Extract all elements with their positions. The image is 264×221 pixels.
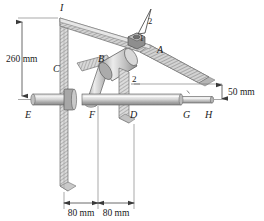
- slope-run-label: 1: [140, 33, 144, 43]
- slope-rise-label: 2: [148, 16, 152, 26]
- label-B: B: [98, 53, 104, 64]
- label-I: I: [59, 2, 64, 13]
- dimension-80mm-right-label: 80 mm: [103, 208, 130, 218]
- label-C: C: [53, 63, 60, 74]
- label-E: E: [24, 109, 31, 120]
- figure-canvas: 260 mm 50 mm 80 mm 80 mm 2 1 2 I C A B E: [0, 0, 264, 221]
- label-D: D: [129, 109, 138, 120]
- label-A: A: [156, 44, 164, 55]
- dimension-50mm-label: 50 mm: [228, 87, 255, 97]
- dimension-80mm-left-label: 80 mm: [68, 208, 95, 218]
- dimension-260mm-label: 260 mm: [6, 54, 38, 64]
- engineering-diagram: 260 mm 50 mm 80 mm 80 mm 2 1 2 I C A B E: [0, 0, 264, 221]
- label-H: H: [204, 109, 213, 120]
- callout-2-label: 2: [132, 74, 137, 84]
- label-G: G: [183, 109, 190, 120]
- label-F: F: [88, 109, 96, 120]
